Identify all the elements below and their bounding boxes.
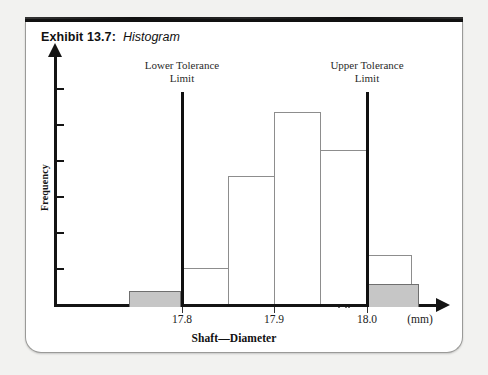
x-axis-units-label: (mm) [397,313,443,325]
upper-tolerance-caption: Upper Tolerance Limit [302,59,432,84]
histogram-bar [345,307,347,308]
histogram-bar [320,150,367,307]
x-axis-tick-label: 17.9 [251,313,297,325]
y-axis-tick [57,268,64,270]
lower-tolerance-caption: Lower Tolerance Limit [117,59,247,84]
histogram-bar [274,112,321,307]
y-axis-tick [57,88,64,90]
histogram-bar-out-of-spec-left [129,291,181,307]
lower-tolerance-line-front [181,92,184,307]
page-root: Exhibit 13.7:Histogram Frequency [0,0,488,375]
histogram-bar-out-of-spec-right [367,284,419,307]
y-axis-tick [57,232,64,234]
histogram-bar [228,176,275,307]
y-axis-label: Frequency [39,153,50,223]
histogram-plot: Frequency 17.8 17.9 18.0 (mm) Shaft—Diam… [26,22,462,352]
lower-tolerance-caption-line1: Lower Tolerance [117,59,247,72]
upper-tolerance-line-front [366,92,369,307]
exhibit-card: Exhibit 13.7:Histogram Frequency [25,22,463,353]
histogram-bar [348,307,350,308]
x-axis-tick-label: 17.8 [159,313,205,325]
histogram-bar [338,307,340,308]
upper-tolerance-caption-line1: Upper Tolerance [302,59,432,72]
upper-tolerance-caption-line2: Limit [302,72,432,85]
x-axis-title: Shaft—Diameter [144,332,324,344]
x-axis-tick-label: 18.0 [344,313,390,325]
y-axis-tick [57,160,64,162]
y-axis-tick [57,124,64,126]
lower-tolerance-caption-line2: Limit [117,72,247,85]
histogram-bar [183,268,229,307]
y-axis-tick [57,196,64,198]
